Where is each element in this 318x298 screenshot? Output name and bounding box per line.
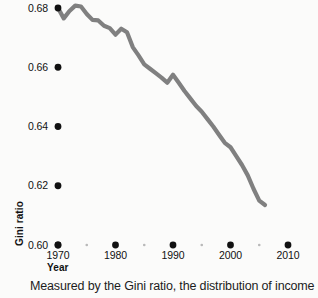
figure-caption: Measured by the Gini ratio, the distribu… [30, 279, 318, 293]
x-axis-major-tick-dot [170, 242, 177, 249]
x-axis-tick-label: 1990 [148, 249, 198, 261]
y-axis-tick-dot [55, 5, 62, 12]
plot-area: 0.600.620.640.660.68 1970198019902000201… [0, 0, 318, 260]
x-axis-tick-label: 1980 [91, 249, 141, 261]
y-axis-title: Gini ratio [14, 201, 25, 246]
x-axis-tick-label: 2000 [206, 249, 256, 261]
x-axis-tick-label: 2010 [263, 249, 313, 261]
y-axis-tick-dot [55, 123, 62, 130]
x-axis-major-tick-dot [285, 242, 292, 249]
chart-figure: 0.600.620.640.660.68 1970198019902000201… [0, 0, 318, 298]
x-axis-tick-dots [55, 242, 292, 249]
y-axis-tick-dots [55, 5, 62, 249]
x-axis-major-tick-dot [55, 242, 62, 249]
x-axis-title: Year [47, 262, 69, 273]
y-axis-tick-label: 0.64 [12, 120, 48, 132]
x-axis-major-tick-dot [112, 242, 119, 249]
x-axis-minor-tick-dot [258, 244, 261, 247]
x-axis-minor-tick-dot [200, 244, 203, 247]
y-axis-tick-dot [55, 182, 62, 189]
gini-ratio-line [58, 6, 265, 205]
y-axis-tick-label: 0.66 [12, 61, 48, 73]
y-axis-tick-dot [55, 64, 62, 71]
x-axis-minor-tick-dot [85, 244, 88, 247]
y-axis-tick-label: 0.62 [12, 179, 48, 191]
x-axis-minor-tick-dot [143, 244, 146, 247]
y-axis-tick-label: 0.68 [12, 2, 48, 14]
x-axis-tick-label: 1970 [33, 249, 83, 261]
x-axis-major-tick-dot [227, 242, 234, 249]
